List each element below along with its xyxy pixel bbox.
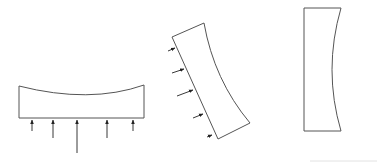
diagram-canvas bbox=[0, 0, 377, 163]
force-arrow-icon bbox=[172, 69, 184, 73]
vertical-beam bbox=[304, 8, 341, 131]
force-arrow-icon bbox=[168, 48, 175, 51]
tilted-beam bbox=[168, 23, 250, 139]
vertical-beam-outline bbox=[304, 8, 341, 131]
horizontal-beam bbox=[19, 85, 144, 153]
force-arrow-icon bbox=[177, 90, 193, 96]
force-arrow-icon bbox=[207, 135, 212, 137]
tilted-beam-outline bbox=[172, 23, 250, 139]
shapes-layer bbox=[19, 8, 341, 153]
horizontal-beam-outline bbox=[19, 85, 144, 118]
force-arrow-icon bbox=[193, 114, 203, 118]
